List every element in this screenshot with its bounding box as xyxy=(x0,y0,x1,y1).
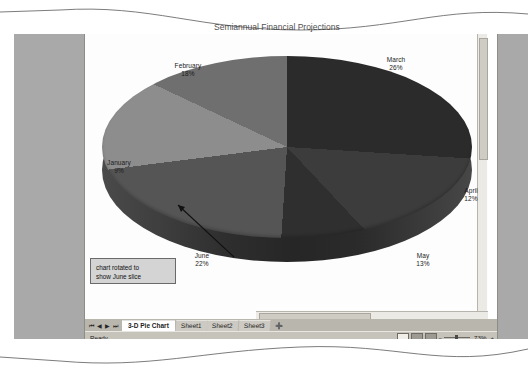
data-label-may-name: May xyxy=(417,252,430,259)
normal-view-icon[interactable] xyxy=(397,333,409,342)
sheet-tab-sheet3[interactable]: Sheet3 xyxy=(239,320,270,331)
page-edge-right xyxy=(498,26,528,343)
insert-worksheet-icon[interactable]: ➕ xyxy=(271,322,287,330)
data-label-march-pct: 26% xyxy=(372,64,420,72)
sheet-nav-buttons: ⏮ ◀ ▶ ⏭ xyxy=(84,323,122,329)
chart-sheet-canvas[interactable]: February 18% March 26% April 12% May 13%… xyxy=(84,26,488,323)
data-label-may: May 13% xyxy=(406,252,440,268)
callout-line-2: show June slice xyxy=(96,272,171,281)
sheet-tab-3d-pie-chart[interactable]: 3-D Pie Chart xyxy=(122,320,175,331)
zoom-out-icon[interactable]: − xyxy=(439,335,443,341)
data-label-march-name: March xyxy=(387,56,406,63)
data-label-january-pct: 9% xyxy=(98,167,140,175)
vertical-scrollbar[interactable] xyxy=(477,26,487,312)
pie-top-face[interactable] xyxy=(102,56,472,238)
data-label-june-name: June xyxy=(195,252,210,259)
status-bar-right: − 73% + xyxy=(397,333,498,342)
status-bar: Ready − 73% + xyxy=(84,331,498,343)
next-sheet-icon[interactable]: ▶ xyxy=(105,323,110,329)
excel-window: February 18% March 26% April 12% May 13%… xyxy=(84,26,498,343)
callout-line-1: chart rotated to xyxy=(96,263,171,272)
zoom-in-icon[interactable]: + xyxy=(490,335,494,341)
zoom-level[interactable]: 73% xyxy=(472,334,488,341)
first-sheet-icon[interactable]: ⏮ xyxy=(89,323,94,329)
previous-sheet-icon[interactable]: ◀ xyxy=(97,323,102,329)
page-break-preview-icon[interactable] xyxy=(425,333,437,342)
page-fold-bottom xyxy=(0,339,528,373)
data-label-march: March 26% xyxy=(372,56,420,72)
scanned-book-page: February 18% March 26% April 12% May 13%… xyxy=(0,0,528,373)
data-label-april: April 12% xyxy=(454,187,488,203)
sheet-tab-sheet1[interactable]: Sheet1 xyxy=(175,320,206,331)
vertical-scrollbar-thumb[interactable] xyxy=(479,38,488,160)
data-label-february-name: February xyxy=(175,62,202,69)
data-label-june: June 22% xyxy=(184,252,220,268)
data-label-february: February 18% xyxy=(162,62,214,78)
page-layout-view-icon[interactable] xyxy=(411,333,423,342)
page-edge-left xyxy=(14,26,84,343)
data-label-june-pct: 22% xyxy=(184,260,220,268)
last-sheet-icon[interactable]: ⏭ xyxy=(113,323,118,329)
data-label-january-name: January xyxy=(107,159,131,166)
data-label-may-pct: 13% xyxy=(406,260,440,268)
data-label-april-name: April xyxy=(464,187,478,194)
data-label-april-pct: 12% xyxy=(454,195,488,203)
zoom-slider-knob[interactable] xyxy=(455,335,458,340)
pie-chart[interactable] xyxy=(102,48,472,278)
callout-note[interactable]: chart rotated to show June slice xyxy=(90,258,176,284)
sheet-tab-sheet2[interactable]: Sheet2 xyxy=(207,320,238,331)
data-label-february-pct: 18% xyxy=(162,70,214,78)
data-label-january: January 9% xyxy=(98,159,140,175)
zoom-slider[interactable] xyxy=(444,337,470,338)
status-text: Ready xyxy=(84,334,108,341)
